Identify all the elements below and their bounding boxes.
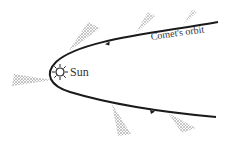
- comet-tail-lower-1: [112, 104, 131, 136]
- comet-tail-left: [12, 74, 52, 86]
- sun-icon: [52, 64, 68, 80]
- comet-orbit-diagram: [0, 0, 232, 154]
- sun-label: Sun: [70, 65, 89, 80]
- comet-tail-upper-3: [183, 10, 197, 25]
- comet-tail-lower-2: [168, 113, 196, 133]
